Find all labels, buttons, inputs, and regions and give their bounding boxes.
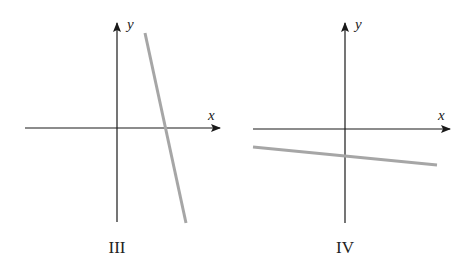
y-axis-label: y — [125, 16, 134, 32]
panel-iv: x y IV — [253, 16, 450, 257]
panel-label: IV — [336, 238, 355, 257]
graph-panels: x y III x y IV — [0, 0, 466, 267]
x-axis-label: x — [437, 107, 445, 123]
panel-iii: x y III — [25, 16, 220, 257]
y-axis-label: y — [353, 16, 362, 32]
panel-label: III — [109, 238, 126, 257]
x-axis-label: x — [207, 107, 215, 123]
